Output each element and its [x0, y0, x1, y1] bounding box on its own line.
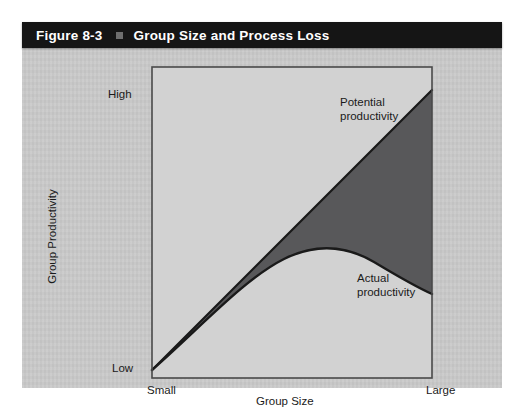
potential-annotation-line2: productivity [340, 109, 398, 123]
figure-title-bar: Figure 8-3 Group Size and Process Loss [22, 22, 502, 48]
x-axis-title: Group Size [256, 395, 314, 408]
actual-annotation-line2: productivity [357, 285, 415, 299]
actual-annotation-line1: Actual [357, 271, 415, 285]
figure-title: Group Size and Process Loss [134, 28, 330, 43]
y-axis-tick-high: High [108, 88, 132, 101]
potential-annotation-line1: Potential [340, 95, 398, 109]
figure-number: Figure 8-3 [36, 28, 103, 43]
actual-productivity-annotation: Actual productivity [357, 271, 415, 299]
y-axis-tick-low: Low [112, 362, 133, 375]
y-axis-title: Group Productivity [46, 189, 59, 284]
figure-panel: Figure 8-3 Group Size and Process Loss H… [22, 22, 502, 388]
process-loss-chart [22, 48, 502, 388]
x-axis-tick-small: Small [147, 384, 176, 397]
x-axis-tick-large: Large [426, 384, 455, 397]
square-bullet-icon [116, 32, 123, 39]
chart-plot-area: High Low Small Large Group Size Group Pr… [22, 48, 502, 388]
potential-productivity-annotation: Potential productivity [340, 95, 398, 123]
